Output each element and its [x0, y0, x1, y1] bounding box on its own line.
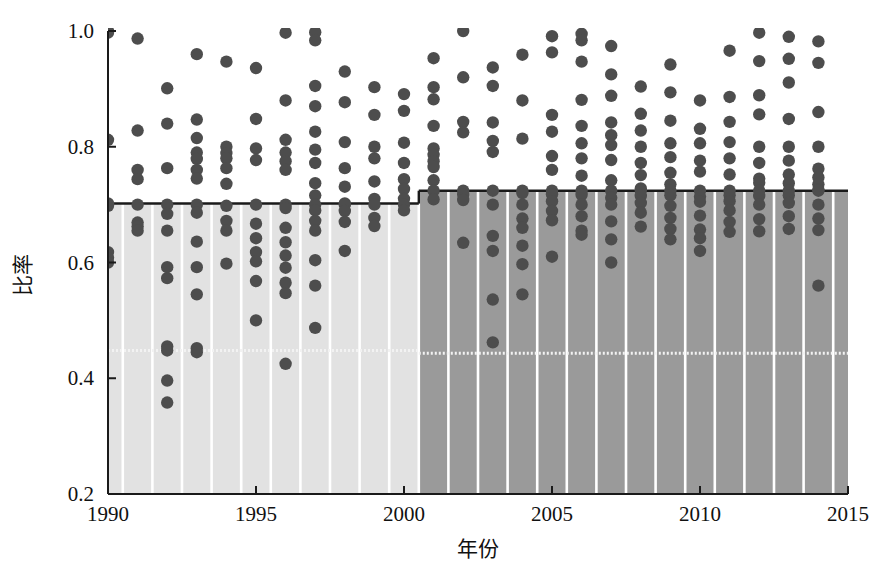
data-point: [191, 207, 203, 219]
x-tick-label: 2005: [531, 502, 573, 526]
data-point: [516, 94, 528, 106]
data-point: [783, 31, 795, 43]
data-point: [575, 229, 587, 241]
y-tick-label: 0.4: [68, 366, 95, 390]
data-point: [279, 358, 291, 370]
data-point: [131, 124, 143, 136]
data-point: [546, 109, 558, 121]
data-point: [427, 161, 439, 173]
data-point: [309, 224, 321, 236]
data-point: [694, 209, 706, 221]
data-point: [635, 220, 647, 232]
data-point: [664, 58, 676, 70]
data-point: [250, 314, 262, 326]
data-point: [516, 222, 528, 234]
data-point: [398, 105, 410, 117]
y-tick-label: 1.0: [68, 19, 94, 43]
data-point: [487, 293, 499, 305]
data-point: [131, 32, 143, 44]
data-point: [220, 257, 232, 269]
data-point: [250, 232, 262, 244]
data-point: [487, 135, 499, 147]
x-tick-label: 2010: [679, 502, 721, 526]
data-point: [812, 185, 824, 197]
data-point: [161, 224, 173, 236]
data-point: [783, 113, 795, 125]
data-point: [694, 94, 706, 106]
data-point: [753, 157, 765, 169]
data-point: [487, 198, 499, 210]
data-point: [635, 108, 647, 120]
data-point: [605, 215, 617, 227]
data-point: [457, 194, 469, 206]
data-point: [664, 200, 676, 212]
data-point: [812, 279, 824, 291]
data-point: [398, 157, 410, 169]
data-point: [191, 132, 203, 144]
data-point: [546, 150, 558, 162]
data-point: [250, 255, 262, 267]
data-point: [220, 200, 232, 212]
data-point: [309, 322, 321, 334]
data-point: [753, 108, 765, 120]
data-point: [605, 198, 617, 210]
data-point: [605, 40, 617, 52]
data-point: [723, 91, 735, 103]
data-point: [250, 154, 262, 166]
data-point: [161, 396, 173, 408]
data-point: [131, 198, 143, 210]
data-point: [516, 49, 528, 61]
data-point: [250, 275, 262, 287]
data-point: [546, 251, 558, 263]
data-point: [546, 30, 558, 42]
data-point: [575, 137, 587, 149]
data-point: [605, 90, 617, 102]
data-point: [635, 169, 647, 181]
data-point: [368, 141, 380, 153]
data-point: [783, 76, 795, 88]
data-point: [812, 198, 824, 210]
data-point: [427, 93, 439, 105]
data-point: [339, 65, 351, 77]
data-point: [191, 48, 203, 60]
data-point: [191, 346, 203, 358]
data-point: [368, 175, 380, 187]
data-point: [131, 224, 143, 236]
data-point: [575, 34, 587, 46]
data-point: [279, 164, 291, 176]
data-point: [487, 245, 499, 257]
data-point: [131, 173, 143, 185]
data-point: [191, 288, 203, 300]
data-point: [398, 88, 410, 100]
data-point: [339, 162, 351, 174]
data-point: [635, 207, 647, 219]
data-point: [723, 168, 735, 180]
data-point: [279, 249, 291, 261]
data-point: [339, 96, 351, 108]
data-point: [309, 126, 321, 138]
data-point: [279, 27, 291, 39]
data-point: [487, 146, 499, 158]
data-point: [279, 287, 291, 299]
data-point: [309, 157, 321, 169]
data-point: [575, 169, 587, 181]
data-point: [457, 25, 469, 37]
data-point: [250, 62, 262, 74]
data-point: [605, 116, 617, 128]
y-tick-label: 0.8: [68, 135, 94, 159]
data-point: [575, 198, 587, 210]
data-point: [191, 153, 203, 165]
data-point: [694, 245, 706, 257]
data-point: [487, 61, 499, 73]
data-point: [546, 164, 558, 176]
data-point: [605, 233, 617, 245]
data-point: [812, 141, 824, 153]
data-point: [309, 279, 321, 291]
x-tick-label: 2015: [827, 502, 869, 526]
data-point: [191, 113, 203, 125]
data-point: [250, 113, 262, 125]
data-point: [694, 123, 706, 135]
data-point: [279, 222, 291, 234]
data-point: [339, 136, 351, 148]
y-axis-title: 比率: [11, 254, 35, 296]
